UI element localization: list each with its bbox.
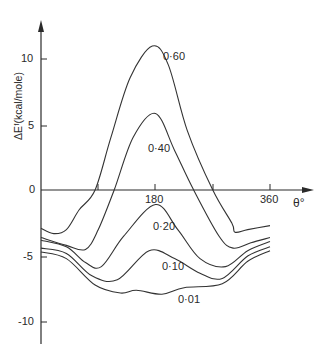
- y-tick-label-neg10: -10: [18, 316, 34, 327]
- curve-0.01: [41, 251, 270, 295]
- x-tick-label-360: 360: [260, 194, 278, 205]
- x-ticks: [98, 184, 270, 190]
- curve-0.20: [41, 204, 270, 268]
- y-tick-label-0: 0: [29, 184, 35, 195]
- series-label-0.10: 0·10: [162, 261, 184, 272]
- y-axis-arrow-icon: [38, 20, 44, 32]
- x-axis-arrow-icon: [302, 187, 314, 193]
- x-tick-label-180: 180: [145, 194, 163, 205]
- curve-0.60: [41, 46, 270, 234]
- y-tick-label-5: 5: [28, 120, 34, 131]
- y-tick-label-10: 10: [21, 53, 33, 64]
- curves: [41, 46, 270, 295]
- y-tick-label-neg5: -5: [23, 251, 33, 262]
- x-axis-label: θ°: [293, 197, 304, 209]
- series-label-0.40: 0·40: [148, 143, 170, 154]
- series-label-0.20: 0·20: [153, 221, 175, 232]
- curve-0.10: [41, 247, 270, 282]
- y-axis-label: ΔEᶠ(kcal/mole): [12, 46, 24, 166]
- series-label-0.60: 0·60: [163, 51, 185, 62]
- series-label-0.01: 0·01: [178, 294, 200, 305]
